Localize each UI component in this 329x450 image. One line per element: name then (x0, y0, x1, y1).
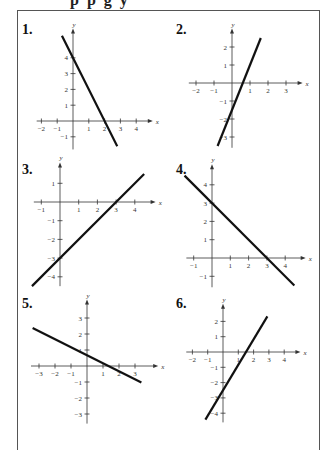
svg-text:−2: −2 (189, 356, 197, 364)
svg-text:4: 4 (282, 356, 286, 364)
svg-text:−1: −1 (211, 364, 219, 372)
svg-text:3: 3 (267, 356, 271, 364)
svg-text:2: 2 (252, 356, 256, 364)
svg-text:y: y (221, 296, 226, 304)
svg-text:−1: −1 (204, 356, 212, 364)
svg-text:1: 1 (215, 333, 219, 341)
svg-text:x: x (302, 349, 307, 357)
svg-text:2: 2 (215, 318, 219, 326)
svg-text:−2: −2 (211, 379, 219, 387)
